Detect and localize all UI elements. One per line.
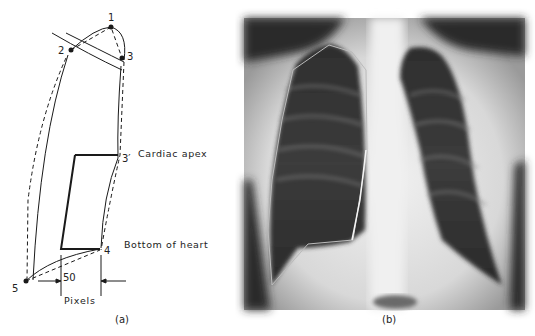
left-boundary-solid	[33, 55, 68, 280]
panel-b-caption: (b)	[382, 314, 396, 325]
point-5-label: 5	[12, 283, 18, 294]
point-2-label: 2	[58, 45, 64, 56]
point-5-marker	[24, 279, 29, 284]
heart-region-outline	[61, 155, 118, 249]
panel-b-chest-xray: (b)	[235, 0, 535, 336]
right-boundary-solid	[101, 66, 121, 248]
spine-column	[370, 18, 404, 310]
cardiac-apex-label: Cardiac apex	[138, 148, 207, 159]
point-3prime-label: 3′	[122, 153, 131, 164]
point-4-label: 4	[104, 245, 110, 256]
scale-bar	[38, 255, 126, 296]
arc-line-2	[66, 33, 124, 62]
gastric-bubble	[373, 295, 417, 309]
panel-a-caption: (a)	[115, 314, 129, 325]
scale-unit-label: Pixels	[64, 295, 96, 306]
point-2-marker	[69, 48, 74, 53]
scale-value-label: 50	[63, 272, 76, 283]
point-1-marker	[109, 25, 114, 30]
bottom-of-heart-label: Bottom of heart	[124, 239, 208, 250]
lung-boundary-diagram: 1 2 3 3′ Cardiac apex 4 Bottom of heart …	[0, 0, 235, 336]
point-3-marker	[120, 56, 125, 61]
panel-a-lung-boundary-diagram: 1 2 3 3′ Cardiac apex 4 Bottom of heart …	[0, 0, 235, 336]
left-boundary-dashed	[27, 58, 66, 280]
point-3-label: 3	[127, 51, 133, 62]
point-1-label: 1	[108, 12, 114, 23]
chest-xray-image: (b)	[235, 0, 535, 336]
